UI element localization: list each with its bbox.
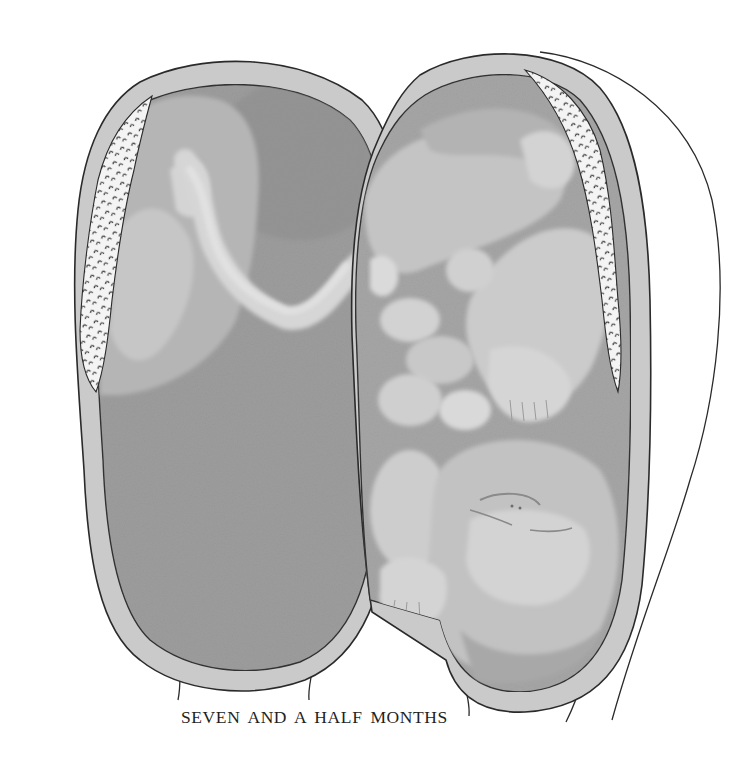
uterus-illustration — [0, 0, 743, 764]
illustration-figure: SEVEN AND A HALF MONTHS — [0, 0, 743, 764]
left-uterine-half — [75, 61, 400, 691]
figure-caption: SEVEN AND A HALF MONTHS — [181, 707, 448, 728]
right-uterine-half — [352, 54, 651, 712]
